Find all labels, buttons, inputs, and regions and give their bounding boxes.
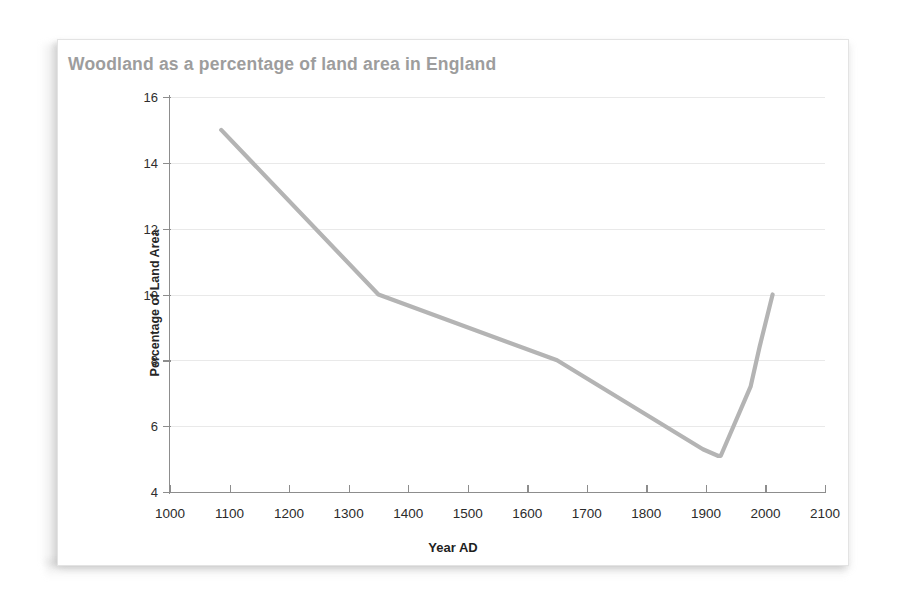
y-tick-label: 10	[144, 287, 158, 302]
y-tick-label: 8	[151, 353, 158, 368]
x-tick-label: 1100	[215, 506, 244, 521]
y-tick-label: 4	[151, 485, 158, 500]
y-tick-label: 14	[144, 155, 158, 170]
y-tick-label: 16	[144, 90, 158, 105]
scan-edge-shadow-left	[40, 44, 60, 564]
x-tick-label: 1800	[631, 506, 661, 521]
x-tick-label: 2100	[810, 506, 840, 521]
x-tick-label: 1700	[572, 506, 602, 521]
chart-title: Woodland as a percentage of land area in…	[68, 54, 496, 75]
x-tick-label: 1600	[512, 506, 542, 521]
chart-card: Woodland as a percentage of land area in…	[58, 40, 848, 565]
x-tick-label: 1400	[393, 506, 423, 521]
x-tick-label: 1500	[453, 506, 483, 521]
page-background: Woodland as a percentage of land area in…	[0, 0, 903, 605]
x-tick-label: 1200	[274, 506, 304, 521]
x-axis-label: Year AD	[58, 540, 848, 555]
x-tick-mark	[825, 485, 826, 493]
x-tick-label: 2000	[750, 506, 780, 521]
series-line-chart	[170, 97, 825, 492]
y-tick-label: 12	[144, 221, 158, 236]
x-tick-label: 1300	[334, 506, 364, 521]
x-tick-label: 1900	[691, 506, 721, 521]
series-line-woodland-cover	[221, 130, 772, 456]
x-tick-label: 1000	[155, 506, 185, 521]
y-tick-label: 6	[151, 419, 158, 434]
plot-area: 46810121416 1000110012001300140015001600…	[170, 97, 825, 492]
